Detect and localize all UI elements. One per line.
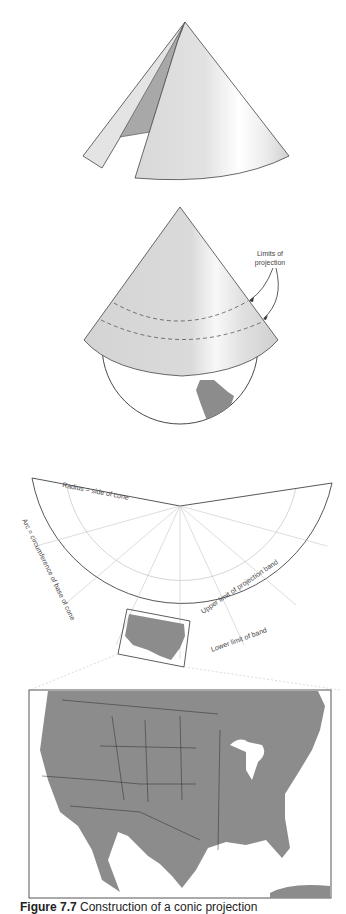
usa-inset-landmass: [125, 614, 185, 660]
figure-caption: Figure 7.7 Construction of a conic proje…: [20, 900, 257, 914]
limits-arrow-2: [264, 268, 278, 318]
usa-map-panel: [29, 690, 331, 898]
cone-shape: [84, 207, 278, 376]
cone-on-globe-panel: Limits of projection: [84, 207, 285, 446]
arc-label: Arc = circumference of base of cone: [21, 517, 77, 621]
outer-arc: [32, 478, 332, 603]
lower-limit-label: Lower limit of band: [210, 626, 268, 653]
figure-number: Figure 7.7: [20, 900, 77, 914]
upper-limit-label: Upper limit of projection band: [200, 558, 280, 616]
radius-label: Radius = side of cone: [62, 481, 130, 501]
limits-label-line2: projection: [255, 259, 285, 267]
radius-right: [180, 483, 332, 506]
unrolling-cone-panel: [83, 22, 289, 180]
flattened-cone-panel: Radius = side of cone Arc = circumferenc…: [21, 478, 340, 690]
figure-caption-text: Construction of a conic projection: [80, 900, 257, 914]
limits-arrow-1: [250, 268, 273, 300]
limits-label-line1: Limits of: [257, 250, 283, 257]
